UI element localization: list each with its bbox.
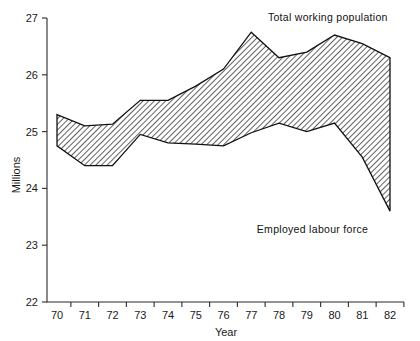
x-tick-label: 76 <box>217 309 229 321</box>
x-tick-label: 74 <box>162 309 174 321</box>
y-axis-title: Millions <box>10 156 22 193</box>
x-tick-label: 77 <box>245 309 257 321</box>
x-axis-title: Year <box>215 326 238 338</box>
x-tick-label: 80 <box>328 309 340 321</box>
series-annotation: Total working population <box>268 11 388 23</box>
x-tick-label: 78 <box>273 309 285 321</box>
x-tick-label: 70 <box>51 309 63 321</box>
y-tick-label: 23 <box>26 239 38 251</box>
y-tick-label: 26 <box>26 69 38 81</box>
area-chart: 222324252627 70717273747576777879808182 … <box>0 0 420 341</box>
x-tick-label: 75 <box>190 309 202 321</box>
y-tick-label: 24 <box>26 182 38 194</box>
x-tick-label: 71 <box>79 309 91 321</box>
y-tick-label: 27 <box>26 12 38 24</box>
x-tick-label: 73 <box>134 309 146 321</box>
x-tick-label: 82 <box>384 309 396 321</box>
y-tick-label: 25 <box>26 126 38 138</box>
x-tick-label: 72 <box>106 309 118 321</box>
x-tick-label: 81 <box>356 309 368 321</box>
y-tick-label: 22 <box>26 296 38 308</box>
chart-canvas: 222324252627 70717273747576777879808182 … <box>0 0 420 341</box>
x-tick-label: 79 <box>301 309 313 321</box>
series-annotation: Employed labour force <box>257 223 368 235</box>
